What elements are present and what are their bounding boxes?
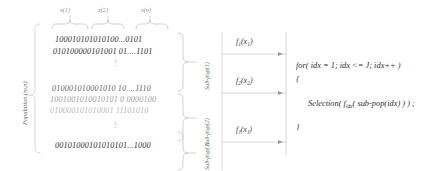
subpop-brace-1	[178, 33, 188, 91]
chromosome-row: 010000101010001 11101010	[50, 107, 149, 115]
arrow-head-1	[278, 52, 283, 56]
subpop-brace-J	[178, 132, 188, 170]
diagram-canvas: x(1) x(2) x(n) Population (m,n) 10001010…	[0, 0, 435, 171]
selection-prefix: Selection( f	[308, 99, 346, 108]
fitness-argindex-J: J	[247, 129, 249, 135]
code-line-close-brace: }	[296, 124, 299, 132]
selection-subscript: idx	[346, 103, 353, 109]
subpop-brace-2	[178, 94, 188, 141]
selection-suffix: ( sub-pop(idx) ) ) ;	[353, 99, 415, 108]
fitness-index-2: 2	[238, 80, 241, 86]
gene-label-x1: x(1)	[60, 7, 70, 13]
subpop-label-J: Sub-pop(J)	[204, 143, 210, 171]
vertical-ellipsis: ⋮	[112, 122, 119, 129]
subpop-label-1: Sub-pop(1)	[204, 62, 210, 90]
gene-label-x2: x(2)	[98, 7, 108, 13]
chromosome-row: 1001001010010101 0 0000100	[50, 96, 156, 104]
arrow-head-2	[278, 91, 283, 95]
fitness-argindex-2: 2	[247, 80, 250, 86]
fitness-function-2: f2(x2)	[236, 77, 253, 85]
arrow-head-3	[278, 140, 283, 144]
code-line-open-brace: {	[296, 76, 299, 84]
fitness-index-1: 1	[238, 41, 241, 47]
gene-brace-x2	[92, 20, 124, 29]
fitness-function-J: fJ(xJ)	[236, 126, 252, 134]
gene-brace-xn	[136, 20, 168, 29]
population-brace	[30, 24, 40, 153]
chromosome-row: 010100000101001 01....1101	[53, 48, 153, 56]
fitness-function-1: f1(x1)	[236, 38, 253, 46]
vertical-ellipsis: ⋮	[112, 60, 119, 67]
code-line-for: for( idx = 1; idx <= J; idx++ )	[296, 62, 401, 70]
chromosome-row: 00101000101010101...1000	[55, 142, 151, 150]
gene-label-xn: x(n)	[141, 7, 151, 13]
fitness-argindex-1: 1	[247, 41, 250, 47]
fitness-index-J: J	[238, 129, 240, 135]
chromosome-row: 100010101010100...0101	[55, 36, 142, 44]
population-label: Population (m,n)	[22, 81, 28, 125]
gene-brace-x1	[52, 20, 88, 29]
code-line-selection: Selection( fidx( sub-pop(idx) ) ) ;	[308, 100, 415, 108]
chromosome-row: 010001010001010 10....1110	[52, 85, 151, 93]
